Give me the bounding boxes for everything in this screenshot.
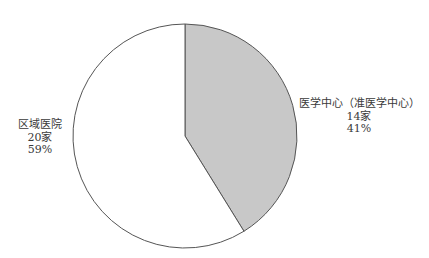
slice-label-percent: 59% (12, 144, 68, 157)
slice-label-name: 区域医院 (12, 119, 68, 132)
slice-label-name: 医学中心（准医学中心） (298, 98, 420, 111)
slice-label-percent: 41% (298, 123, 420, 136)
slice-label-regional-hospital: 区域医院 20家 59% (12, 119, 68, 157)
slice-label-medical-center: 医学中心（准医学中心） 14家 41% (298, 98, 420, 136)
